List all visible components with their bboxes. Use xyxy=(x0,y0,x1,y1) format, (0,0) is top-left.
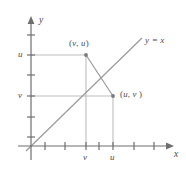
guide-lines xyxy=(31,55,113,146)
x-axis xyxy=(18,142,168,150)
point-label-u-v: (u, v ) xyxy=(120,90,142,99)
y-axis xyxy=(27,22,35,160)
diagonal-line-label: y = x xyxy=(145,36,165,45)
connector-segment xyxy=(86,55,113,96)
x-axis-arrowhead xyxy=(166,143,174,150)
y-axis-tick-label-v: v xyxy=(18,91,22,100)
point-marker-u-v xyxy=(111,94,115,98)
x-axis-tick-label-v: v xyxy=(83,153,87,162)
figure-canvas xyxy=(0,0,186,177)
y-axis-arrowhead xyxy=(28,16,35,24)
coordinate-plane-figure: y x u v v u y = x (v, u) (u, v ) xyxy=(0,0,186,177)
point-marker-v-u xyxy=(84,53,88,57)
point-label-u-v-close: ) xyxy=(137,89,143,99)
x-axis-label: x xyxy=(174,150,178,160)
y-axis-label: y xyxy=(39,16,43,26)
point-label-v-u-close: ) xyxy=(86,38,89,48)
x-axis-tick-label-u: u xyxy=(110,153,115,162)
point-label-v-u: (v, u) xyxy=(69,39,89,48)
y-axis-tick-label-u: u xyxy=(18,50,23,59)
